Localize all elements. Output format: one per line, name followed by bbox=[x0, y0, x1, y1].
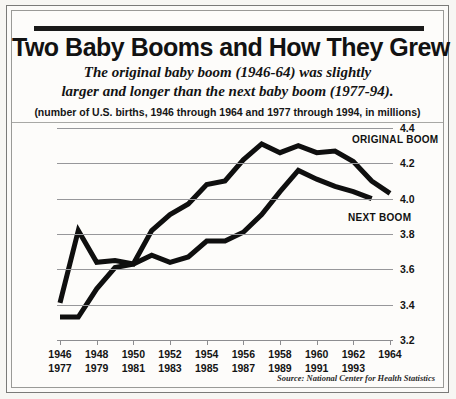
y-tick-label-4.2: 4.2 bbox=[400, 157, 434, 169]
x-tick-1964 bbox=[390, 340, 391, 345]
plot-area: ORIGINAL BOOM NEXT BOOM bbox=[57, 128, 393, 340]
gridline-3.6 bbox=[57, 269, 393, 270]
chart-screenshot: Two Baby Booms and How They Grew The ori… bbox=[0, 0, 456, 399]
title-top-rule bbox=[34, 26, 424, 31]
x-tick-1952 bbox=[170, 340, 171, 345]
series-line-next-boom bbox=[60, 170, 372, 317]
series-label-original-boom: ORIGINAL BOOM bbox=[352, 134, 439, 145]
x-tick-label-1954: 1954 bbox=[187, 348, 227, 360]
gridline-3.8 bbox=[57, 234, 393, 235]
x-tick-label-1983: 1983 bbox=[150, 362, 190, 374]
x-tick-label-1977: 1977 bbox=[40, 362, 80, 374]
x-tick-label-1981: 1981 bbox=[113, 362, 153, 374]
y-tick-label-3.4: 3.4 bbox=[400, 299, 434, 311]
gridline-4.0 bbox=[57, 199, 393, 200]
units-note: (number of U.S. births, 1946 through 196… bbox=[12, 106, 443, 118]
subtitle-line-1: The original baby boom (1946-64) was sli… bbox=[12, 64, 443, 81]
y-tick-label-4.0: 4.0 bbox=[400, 193, 434, 205]
x-tick-1948 bbox=[97, 340, 98, 345]
x-tick-label-1952: 1952 bbox=[150, 348, 190, 360]
gridline-4.4 bbox=[57, 128, 393, 129]
x-tick-label-1987: 1987 bbox=[223, 362, 263, 374]
subtitle-line-2: larger and longer than the next baby boo… bbox=[12, 83, 443, 100]
x-tick-1954 bbox=[207, 340, 208, 345]
x-tick-label-1958: 1958 bbox=[260, 348, 300, 360]
y-tick-label-3.2: 3.2 bbox=[400, 334, 434, 346]
x-tick-1956 bbox=[243, 340, 244, 345]
x-tick-label-1948: 1948 bbox=[77, 348, 117, 360]
x-tick-label-1979: 1979 bbox=[77, 362, 117, 374]
x-tick-1962 bbox=[353, 340, 354, 345]
x-axis-line bbox=[57, 340, 393, 341]
x-tick-1958 bbox=[280, 340, 281, 345]
y-tick-label-3.8: 3.8 bbox=[400, 228, 434, 240]
x-tick-label-1985: 1985 bbox=[187, 362, 227, 374]
x-tick-1950 bbox=[133, 340, 134, 345]
y-tick-label-3.6: 3.6 bbox=[400, 263, 434, 275]
x-tick-1946 bbox=[60, 340, 61, 345]
x-tick-label-1962: 1962 bbox=[333, 348, 373, 360]
gridline-3.4 bbox=[57, 305, 393, 306]
header-separator bbox=[12, 122, 443, 123]
x-tick-label-1956: 1956 bbox=[223, 348, 263, 360]
gridline-4.2 bbox=[57, 163, 393, 164]
plot-wrapper: ORIGINAL BOOM NEXT BOOM 3.23.43.63.84.04… bbox=[12, 124, 443, 387]
x-tick-1960 bbox=[317, 340, 318, 345]
x-tick-label-1960: 1960 bbox=[297, 348, 337, 360]
series-label-next-boom: NEXT BOOM bbox=[348, 212, 411, 223]
y-tick-label-4.4: 4.4 bbox=[400, 122, 434, 134]
x-tick-label-1950: 1950 bbox=[113, 348, 153, 360]
series-line-original-boom bbox=[60, 144, 390, 303]
source-note: Source: National Center for Health Stati… bbox=[277, 373, 435, 383]
x-tick-label-1964: 1964 bbox=[370, 348, 410, 360]
chart-content: Two Baby Booms and How They Grew The ori… bbox=[12, 11, 443, 387]
page-title: Two Baby Booms and How They Grew bbox=[12, 33, 443, 62]
x-tick-label-1946: 1946 bbox=[40, 348, 80, 360]
